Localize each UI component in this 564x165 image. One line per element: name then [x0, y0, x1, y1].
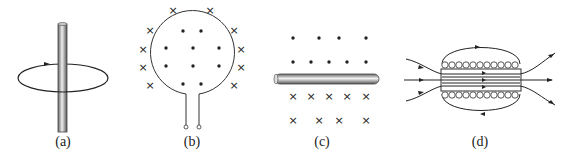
svg-text:×: ×: [314, 114, 323, 127]
svg-text:×: ×: [288, 114, 297, 127]
svg-text:×: ×: [205, 4, 214, 17]
label-c: (c): [314, 134, 330, 150]
svg-text:×: ×: [138, 43, 147, 56]
svg-text:×: ×: [361, 114, 370, 127]
svg-text:×: ×: [168, 4, 177, 17]
solenoid-coils-bottom: [442, 92, 518, 98]
label-d: (d): [472, 134, 488, 150]
panel-a: [18, 23, 108, 133]
svg-text:×: ×: [288, 90, 297, 103]
svg-text:×: ×: [145, 24, 154, 37]
svg-text:×: ×: [236, 43, 245, 56]
dots-above: [291, 36, 367, 63]
svg-text:×: ×: [229, 24, 238, 37]
svg-text:×: ×: [229, 79, 238, 92]
current-loop: [151, 11, 235, 94]
terminal-right: [197, 125, 201, 129]
dots-inside: [164, 29, 220, 85]
panel-d: [404, 45, 555, 116]
svg-text:×: ×: [145, 79, 154, 92]
horizontal-wire: [275, 74, 379, 84]
crosses-below: ××××× ××××: [288, 90, 370, 127]
svg-text:×: ×: [361, 90, 370, 103]
svg-text:×: ×: [342, 90, 351, 103]
vertical-wire: [58, 24, 67, 132]
svg-text:×: ×: [334, 114, 343, 127]
svg-text:×: ×: [324, 90, 333, 103]
label-b: (b): [184, 134, 200, 150]
panel-c: ××××× ××××: [274, 36, 379, 127]
solenoid-coils-top: [442, 62, 518, 68]
label-a: (a): [55, 134, 71, 150]
panel-b: ×× ×× ×× ×× ××: [138, 4, 245, 129]
svg-text:×: ×: [138, 61, 147, 74]
terminal-left: [184, 125, 188, 129]
svg-text:×: ×: [306, 90, 315, 103]
svg-text:×: ×: [236, 61, 245, 74]
